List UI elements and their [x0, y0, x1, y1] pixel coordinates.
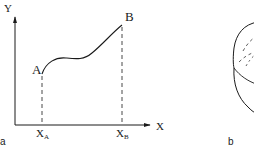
y-axis-label: Y [4, 3, 12, 14]
tick-label-xa-sub: A [44, 133, 49, 141]
tick-label-xb-base: X [116, 127, 124, 139]
x-axis-label: X [156, 121, 164, 132]
curve-a-to-b [42, 25, 122, 74]
outer-upper-arc [233, 22, 254, 68]
equator-arc [234, 68, 254, 84]
inner-dashed-arc-3 [246, 55, 254, 66]
point-b-label: B [125, 10, 134, 23]
tick-label-xa: XA [36, 128, 49, 141]
inner-dashed-arc-2 [239, 52, 254, 62]
point-a-label: A [32, 63, 41, 76]
outer-lower-arc [234, 68, 254, 113]
panel-a-label: a [0, 137, 6, 147]
inner-dashed-arc-1 [243, 37, 254, 51]
tick-label-xa-base: X [36, 127, 44, 139]
panel-b [233, 22, 254, 113]
panel-b-label: b [228, 137, 234, 147]
tick-label-xb: XB [116, 128, 129, 141]
tick-label-xb-sub: B [124, 133, 129, 141]
